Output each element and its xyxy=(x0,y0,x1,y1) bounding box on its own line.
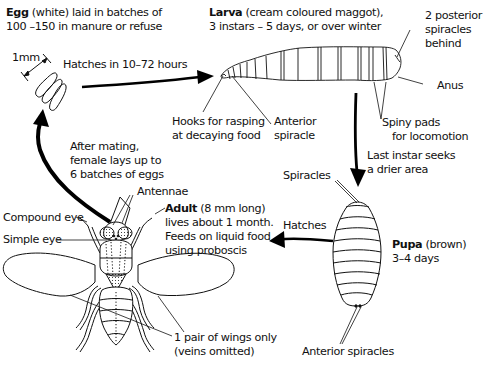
pupa-drawing xyxy=(333,202,381,307)
label-spiny-pads-2: for locomotion xyxy=(392,130,468,144)
egg-drawing xyxy=(36,73,67,110)
pupa-transition-note: Hatches xyxy=(283,219,326,233)
label-hooks-1: Hooks for rasping xyxy=(172,115,265,129)
egg-desc-line2: 100 –150 in manure or refuse xyxy=(6,20,162,34)
pupa-stage-name: Pupa xyxy=(392,238,422,251)
egg-stage-name: Egg xyxy=(6,6,29,19)
label-compound-eye: Compound eye xyxy=(3,211,84,225)
pupa-desc-line2: 3–4 days xyxy=(392,252,439,266)
larva-desc-line1: (cream coloured maggot), xyxy=(242,6,383,19)
pupa-desc-line1: (brown) xyxy=(422,238,466,251)
label-antennae: Antennae xyxy=(137,185,188,199)
egg-desc-line1: (white) laid in batches of xyxy=(29,6,162,19)
adult-description: Adult (8 mm long) xyxy=(165,202,265,216)
housefly-life-cycle-diagram: Egg (white) laid in batches of 100 –150 … xyxy=(0,0,485,365)
larva-drawing xyxy=(221,47,401,81)
egg-description: Egg (white) laid in batches of xyxy=(6,6,162,20)
diagram-artwork xyxy=(0,0,485,365)
label-anterior-spiracles: Anterior spiracles xyxy=(302,345,394,359)
label-hooks-2: at decaying food xyxy=(172,129,260,143)
arrow-egg-to-larva xyxy=(82,70,214,87)
adult-transition-note-2: female lays up to xyxy=(70,154,161,168)
label-posterior-spiracles-2: spiracles xyxy=(425,23,471,37)
arrow-larva-to-pupa xyxy=(350,93,366,187)
larva-transition-note-2: a drier area xyxy=(367,163,428,177)
label-posterior-spiracles-3: behind xyxy=(425,37,461,51)
egg-scale-label: 1mm xyxy=(12,51,40,65)
larva-stage-name: Larva xyxy=(209,6,242,19)
adult-desc-line1: (8 mm long) xyxy=(197,202,265,215)
adult-desc-line3: Feeds on liquid food xyxy=(165,230,270,244)
label-anterior-spiracle-2: spiracle xyxy=(274,129,315,143)
label-spiny-pads-1: Spiny pads xyxy=(382,116,440,130)
adult-transition-note-1: After mating, xyxy=(70,140,139,154)
label-posterior-spiracles-1: 2 posterior xyxy=(425,9,482,23)
adult-transition-note-3: 6 batches of eggs xyxy=(70,168,164,182)
label-wings-2: (veins omitted) xyxy=(174,345,254,359)
egg-hatch-note: Hatches in 10–72 hours xyxy=(63,58,187,72)
adult-desc-line4: using proboscis xyxy=(165,244,247,258)
adult-stage-name: Adult xyxy=(165,202,197,215)
larva-desc-line2: 3 instars – 5 days, or over winter xyxy=(209,20,381,34)
label-anterior-spiracle-1: Anterior xyxy=(274,115,316,129)
larva-description: Larva (cream coloured maggot), xyxy=(209,6,383,20)
label-simple-eye: Simple eye xyxy=(3,233,62,247)
label-pupa-spiracles: Spiracles xyxy=(283,169,331,183)
arrow-pupa-to-adult xyxy=(269,231,333,248)
label-wings-1: 1 pair of wings only xyxy=(174,331,277,345)
pupa-description: Pupa (brown) xyxy=(392,238,466,252)
label-anus: Anus xyxy=(437,79,463,93)
adult-desc-line2: lives about 1 month. xyxy=(165,216,273,230)
larva-transition-note-1: Last instar seeks xyxy=(367,149,455,163)
